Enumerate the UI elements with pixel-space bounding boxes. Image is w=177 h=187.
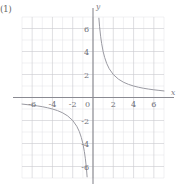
plot-svg: -6-4-20246-6-4-2246 xy (0, 0, 177, 187)
y-tick-label: 2 (84, 71, 89, 80)
x-tick-label: -6 (28, 100, 36, 109)
x-axis-name: x (171, 88, 176, 97)
y-tick-label: 4 (84, 48, 89, 57)
chart-screenshot: (1) -6-4-20246-6-4-2246 xy (0, 0, 177, 187)
y-tick-label: -6 (81, 163, 89, 172)
x-tick-label: 6 (151, 100, 156, 109)
axis-names: xy (95, 2, 176, 97)
y-axis-name: y (95, 2, 101, 11)
axes (13, 8, 174, 184)
x-tick-label: 4 (131, 100, 136, 109)
x-tick-label-origin: 0 (85, 100, 90, 109)
x-tick-label: -4 (49, 100, 57, 109)
y-tick-label: 6 (84, 25, 89, 34)
y-tick-label: -4 (81, 140, 89, 149)
hyperbola-branch-quadrant-III (22, 104, 87, 177)
y-tick-label: -2 (81, 117, 89, 126)
x-tick-label: 2 (111, 100, 116, 109)
hyperbola-branch-quadrant-I (99, 18, 164, 91)
x-tick-label: -2 (69, 100, 77, 109)
hyperbola-plot: -6-4-20246-6-4-2246 xy (0, 0, 177, 187)
